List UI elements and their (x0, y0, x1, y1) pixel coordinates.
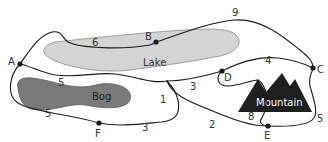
weight-label-junction-loop: 1 (160, 94, 166, 105)
bog-region (18, 78, 131, 110)
node-label-e: E (264, 130, 270, 141)
trail-map-diagram: Lake Bog Mountain A B C D E F 6 9 5 5 3 … (0, 0, 328, 142)
lake-region (44, 29, 239, 71)
node-label-b: B (145, 31, 152, 42)
node-c (310, 65, 315, 70)
node-e (265, 123, 270, 128)
weight-label-b-c: 9 (232, 7, 238, 18)
node-label-f: F (95, 128, 101, 139)
trail-junction-d (167, 71, 222, 81)
weight-label-d-e: 8 (248, 111, 254, 122)
node-a (17, 61, 22, 66)
bog-label: Bog (92, 91, 111, 102)
mountain-label: Mountain (256, 97, 303, 108)
node-label-c: C (317, 64, 324, 75)
lake-label: Lake (143, 57, 166, 68)
node-f (96, 120, 101, 125)
node-label-a: A (8, 56, 15, 67)
weight-label-f-junction: 3 (142, 122, 148, 133)
weight-label-junction-e: 2 (209, 119, 215, 130)
weight-label-d-c: 4 (265, 55, 271, 66)
weight-label-a-f: 5 (45, 108, 51, 119)
weight-label-junction-d: 3 (190, 81, 196, 92)
weight-label-c-e: 5 (317, 113, 323, 124)
node-label-d: D (224, 72, 232, 83)
node-b (153, 39, 158, 44)
weight-label-a-b: 6 (92, 37, 98, 48)
weight-label-a-junction-upper: 5 (58, 77, 64, 88)
